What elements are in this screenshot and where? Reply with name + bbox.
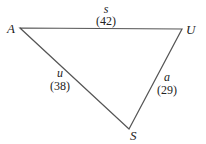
triangle-shape — [20, 28, 182, 129]
edge-a-value: (29) — [157, 83, 177, 97]
edge-u-name: u — [57, 66, 63, 80]
edge-a-name: a — [164, 70, 170, 84]
vertex-label-a: A — [6, 21, 15, 36]
triangle-diagram: A U S s (42) u (38) a (29) — [0, 0, 206, 144]
vertex-label-u: U — [186, 22, 197, 37]
edge-s-value: (42) — [96, 14, 116, 28]
vertex-label-s: S — [130, 128, 137, 143]
edge-u-value: (38) — [50, 79, 70, 93]
